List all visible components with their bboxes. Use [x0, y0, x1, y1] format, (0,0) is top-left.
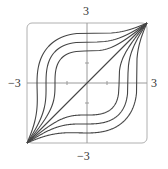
- x-min-label: −3: [8, 77, 21, 89]
- y-max-label: 3: [83, 5, 89, 17]
- x-max-label: 3: [151, 77, 157, 89]
- plot-area: [0, 0, 168, 169]
- y-min-label: −3: [77, 150, 90, 162]
